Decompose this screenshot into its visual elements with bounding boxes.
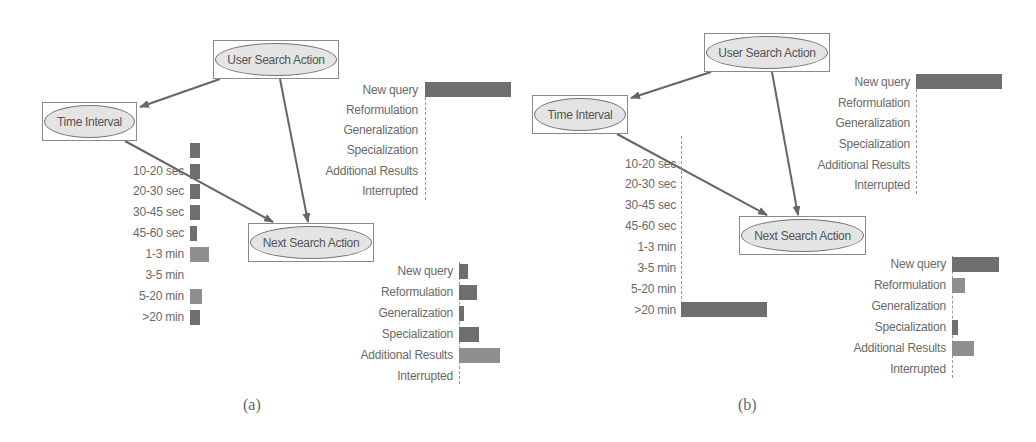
bar-label: New query bbox=[362, 83, 418, 97]
bar-row: Generalization bbox=[330, 304, 453, 322]
bar-row: 30-45 sec bbox=[100, 203, 184, 221]
bar-label: 20-30 sec bbox=[625, 177, 676, 191]
bar-row: 30-45 sec bbox=[590, 196, 676, 214]
bar-label: Reformulation bbox=[874, 278, 946, 292]
bar-gt-20-min bbox=[681, 302, 767, 317]
bar-label: Specialization bbox=[839, 137, 910, 151]
bar-label: 5-20 min bbox=[139, 289, 184, 303]
bar-row: Additional Results bbox=[300, 162, 418, 180]
node-label: Time Interval bbox=[44, 105, 135, 138]
bar-0-10-sec bbox=[190, 143, 200, 158]
node-time-interval[interactable]: Time Interval bbox=[532, 95, 628, 134]
bar-label: >20 min bbox=[142, 310, 184, 324]
edge-usa-to-ti-b bbox=[631, 72, 711, 98]
bar-row: Specialization bbox=[300, 141, 418, 159]
bar-row: New query bbox=[790, 73, 910, 91]
bar-reformulation bbox=[459, 285, 477, 300]
bar-row: 1-3 min bbox=[100, 245, 184, 263]
bar-specialization bbox=[952, 320, 958, 335]
bar-row: Specialization bbox=[790, 135, 910, 153]
node-label: User Search Action bbox=[215, 43, 337, 76]
bar-label: Interrupted bbox=[890, 362, 946, 376]
bar-label: 10-20 sec bbox=[133, 164, 184, 178]
bar-row: Specialization bbox=[330, 325, 453, 343]
bar-row: Interrupted bbox=[300, 182, 418, 200]
bar-label: 10-20 sec bbox=[625, 157, 676, 171]
axis-nsa-b bbox=[952, 256, 953, 378]
bar-label: Reformulation bbox=[381, 285, 453, 299]
bar-label: 1-3 min bbox=[637, 240, 676, 254]
bar-row: 10-20 sec bbox=[100, 162, 184, 180]
bar-label: Additional Results bbox=[326, 164, 418, 178]
bar-row: New query bbox=[820, 255, 946, 273]
bar-row: Generalization bbox=[820, 297, 946, 315]
axis-nsa-a bbox=[459, 262, 460, 384]
bar-label: Interrupted bbox=[362, 184, 418, 198]
bar-row: Reformulation bbox=[330, 283, 453, 301]
node-user-search-action[interactable]: User Search Action bbox=[704, 33, 830, 72]
bar-label: 3-5 min bbox=[637, 261, 676, 275]
bar-reformulation bbox=[952, 278, 965, 293]
bar-label: 30-45 sec bbox=[625, 198, 676, 212]
bar-row: New query bbox=[330, 262, 453, 280]
bar-5-20-min bbox=[190, 289, 202, 304]
bar-row: Additional Results bbox=[820, 339, 946, 357]
bar-row: 10-20 sec bbox=[590, 155, 676, 173]
bar-row: New query bbox=[300, 81, 418, 99]
bar-gt-20-min bbox=[190, 310, 200, 325]
bar-row: 45-60 sec bbox=[590, 217, 676, 235]
bar-label: Generalization bbox=[343, 123, 418, 137]
node-next-search-action[interactable]: Next Search Action bbox=[739, 216, 866, 255]
bar-row: >20 min bbox=[590, 301, 676, 319]
bar-label: 45-60 sec bbox=[625, 219, 676, 233]
bar-row: 3-5 min bbox=[100, 266, 184, 284]
bar-new-query bbox=[425, 82, 511, 97]
bar-label: 1-3 min bbox=[145, 247, 184, 261]
bar-row: Reformulation bbox=[820, 276, 946, 294]
node-next-search-action[interactable]: Next Search Action bbox=[248, 223, 374, 262]
bar-row: >20 min bbox=[100, 308, 184, 326]
bar-45-60-sec bbox=[190, 226, 197, 241]
bar-label: Additional Results bbox=[854, 341, 946, 355]
bar-row: 3-5 min bbox=[590, 259, 676, 277]
bar-generalization bbox=[459, 306, 464, 321]
bar-label: 20-30 sec bbox=[133, 184, 184, 198]
bar-label: 45-60 sec bbox=[133, 226, 184, 240]
bar-row: 1-3 min bbox=[590, 238, 676, 256]
bar-1-3-min bbox=[190, 247, 209, 262]
node-label: Next Search Action bbox=[250, 226, 372, 259]
bar-label: Generalization bbox=[871, 299, 946, 313]
bar-label: Specialization bbox=[347, 143, 418, 157]
bar-20-30-sec bbox=[190, 184, 200, 199]
bar-label: Specialization bbox=[875, 320, 946, 334]
bar-label: Specialization bbox=[382, 327, 453, 341]
bar-label: Reformulation bbox=[346, 103, 418, 117]
bar-label: Additional Results bbox=[818, 158, 910, 172]
node-user-search-action[interactable]: User Search Action bbox=[213, 40, 339, 79]
bar-label: Interrupted bbox=[854, 178, 910, 192]
bar-row: 45-60 sec bbox=[100, 224, 184, 242]
bar-label: Generalization bbox=[835, 116, 910, 130]
bar-label: New query bbox=[397, 264, 453, 278]
bar-additional-results bbox=[952, 341, 974, 356]
bar-row: Specialization bbox=[820, 318, 946, 336]
bar-new-query bbox=[916, 74, 1002, 89]
node-label: User Search Action bbox=[706, 36, 828, 69]
edge-usa-to-ti-a bbox=[140, 79, 220, 107]
bar-row: Reformulation bbox=[300, 101, 418, 119]
bar-row: Generalization bbox=[790, 114, 910, 132]
bar-label: Additional Results bbox=[361, 348, 453, 362]
bar-row: Interrupted bbox=[790, 176, 910, 194]
bar-label: New query bbox=[890, 257, 946, 271]
bar-label: New query bbox=[854, 75, 910, 89]
bar-10-20-sec bbox=[190, 164, 200, 179]
bar-label: Reformulation bbox=[838, 96, 910, 110]
node-time-interval[interactable]: Time Interval bbox=[42, 102, 137, 141]
bar-row: Interrupted bbox=[820, 360, 946, 378]
bar-specialization bbox=[459, 327, 479, 342]
bar-30-45-sec bbox=[190, 205, 200, 220]
bar-new-query bbox=[952, 257, 999, 272]
bar-label: Generalization bbox=[378, 306, 453, 320]
bar-new-query bbox=[459, 264, 468, 279]
bar-label: 5-20 min bbox=[631, 282, 676, 296]
